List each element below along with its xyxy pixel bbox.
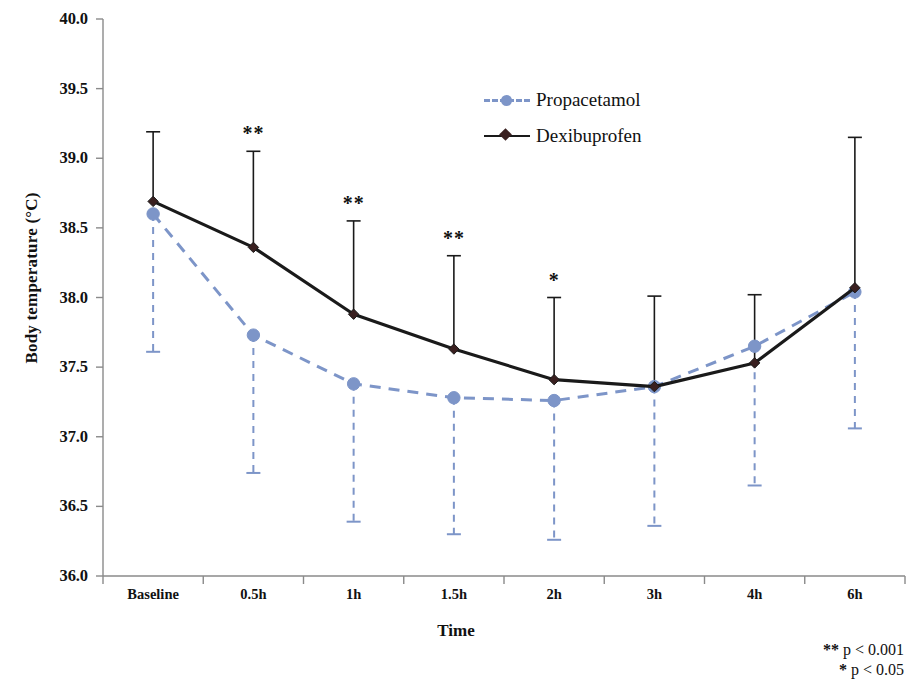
- legend-label-dexibuprofen: Dexibuprofen: [530, 125, 642, 147]
- legend-label-propacetamol: Propacetamol: [530, 89, 640, 111]
- significance-marker: *: [549, 270, 560, 290]
- data-point-propacetamol: [247, 329, 259, 341]
- data-point-propacetamol: [748, 340, 760, 352]
- data-point-propacetamol: [147, 208, 159, 220]
- x-axis-title: Time: [0, 621, 912, 641]
- data-point-propacetamol: [347, 378, 359, 390]
- x-tick-label: 1h: [346, 586, 361, 603]
- legend-item-dexibuprofen: Dexibuprofen: [484, 118, 734, 154]
- legend-swatch-propacetamol: [484, 91, 530, 109]
- body-temperature-line-chart: Body temperature (°C) 40.039.539.038.538…: [0, 0, 912, 686]
- footnote-stars: **: [823, 641, 839, 658]
- plot-area: [0, 0, 912, 686]
- footnote-text: p < 0.05: [847, 661, 904, 678]
- data-point-dexibuprofen: [148, 196, 158, 206]
- data-point-propacetamol: [448, 392, 460, 404]
- x-tick-label: 0.5h: [240, 586, 266, 603]
- x-tick-label: 6h: [847, 586, 862, 603]
- series-line-propacetamol: [153, 214, 855, 401]
- x-tick-label: Baseline: [127, 586, 179, 603]
- data-point-propacetamol: [548, 394, 560, 406]
- data-point-dexibuprofen: [449, 344, 459, 354]
- footnote-stars: *: [839, 661, 847, 678]
- significance-marker: **: [242, 123, 264, 143]
- x-tick-label: 2h: [546, 586, 561, 603]
- data-point-dexibuprofen: [549, 374, 559, 384]
- significance-marker: **: [343, 193, 365, 213]
- significance-footnotes: ** p < 0.001 * p < 0.05: [823, 640, 904, 680]
- x-axis-tick-labels: Baseline0.5h1h1.5h2h3h4h6h: [0, 586, 912, 612]
- legend-swatch-dexibuprofen: [484, 127, 530, 145]
- footnote-line: * p < 0.05: [823, 660, 904, 680]
- legend-item-propacetamol: Propacetamol: [484, 82, 734, 118]
- significance-marker: **: [443, 228, 465, 248]
- footnote-text: p < 0.001: [839, 641, 904, 658]
- x-tick-label: 1.5h: [441, 586, 467, 603]
- chart-legend: Propacetamol Dexibuprofen: [484, 82, 734, 154]
- x-tick-label: 3h: [647, 586, 662, 603]
- x-tick-label: 4h: [747, 586, 762, 603]
- footnote-line: ** p < 0.001: [823, 640, 904, 660]
